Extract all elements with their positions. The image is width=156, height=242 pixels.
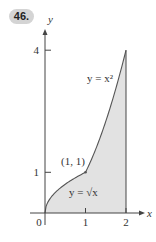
region-chart: 01214 x y y = x² y = √x (1, 1)	[0, 0, 156, 242]
curve-label-sqrt-x: y = √x	[69, 186, 98, 198]
x-axis-arrow-icon	[139, 211, 145, 216]
x-tick-label: 0	[36, 216, 42, 228]
x-tick-label: 1	[83, 216, 89, 228]
y-tick-label: 1	[34, 166, 40, 178]
y-tick-label: 4	[34, 44, 40, 56]
curve-label-x-squared: y = x²	[87, 72, 114, 84]
x-tick-label: 2	[123, 216, 129, 228]
point-1-1	[84, 171, 87, 174]
point-annotation: (1, 1)	[61, 155, 85, 168]
y-axis-label: y	[47, 13, 53, 25]
y-axis-arrow-icon	[43, 29, 48, 35]
x-axis-label: x	[146, 207, 152, 219]
